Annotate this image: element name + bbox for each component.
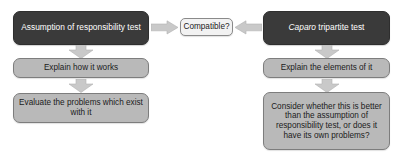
node-label: Caparo tripartite test	[289, 23, 365, 33]
arrow-explain-right-to-consider	[314, 79, 340, 93]
node-compatible-question[interactable]: Compatible?	[180, 18, 233, 36]
node-assumption-of-responsibility-test[interactable]: Assumption of responsibility test	[13, 11, 149, 45]
node-label: Consider whether this is better than the…	[269, 102, 384, 141]
node-label: Explain how it works	[44, 63, 118, 73]
node-consider-whether-better[interactable]: Consider whether this is better than the…	[263, 92, 390, 150]
arrow-assumption-to-explain-left	[68, 45, 94, 59]
arrow-explain-left-to-evaluate	[68, 79, 94, 93]
node-label-italic-part: Caparo	[289, 22, 316, 32]
node-label: Evaluate the problems which exist with i…	[19, 98, 143, 117]
node-label-rest: tripartite test	[316, 22, 364, 32]
node-explain-how-it-works[interactable]: Explain how it works	[13, 58, 149, 78]
node-caparo-tripartite-test[interactable]: Caparo tripartite test	[263, 11, 390, 45]
arrow-assumption-to-compatible	[151, 20, 179, 35]
node-label: Assumption of responsibility test	[21, 23, 141, 33]
node-label: Compatible?	[184, 22, 230, 32]
node-evaluate-the-problems[interactable]: Evaluate the problems which exist with i…	[13, 93, 149, 123]
node-explain-the-elements[interactable]: Explain the elements of it	[263, 58, 390, 78]
arrow-caparo-to-compatible	[235, 20, 262, 35]
node-label: Explain the elements of it	[281, 63, 372, 73]
flowchart-diagram: Assumption of responsibility test Explai…	[0, 0, 400, 168]
arrow-caparo-to-explain-right	[314, 45, 340, 59]
